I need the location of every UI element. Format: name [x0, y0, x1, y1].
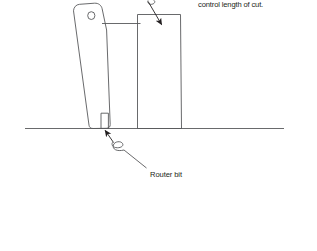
label-router-bit: Router bit — [150, 171, 182, 180]
line-drawing-svg — [0, 0, 317, 251]
router-bit — [101, 113, 108, 128]
router-body — [74, 3, 111, 128]
leader-router-bit-squiggle — [112, 142, 124, 151]
caption-control-length-of-cut: control length of cut. — [198, 1, 263, 10]
leader-top-line — [148, 2, 161, 25]
leader-router-bit-arrow — [105, 131, 113, 143]
workpiece — [138, 15, 182, 129]
leader-router-bit-line — [124, 150, 147, 168]
figure-canvas: control length of cut. Router bit — [0, 0, 317, 251]
router-knob — [88, 12, 95, 20]
